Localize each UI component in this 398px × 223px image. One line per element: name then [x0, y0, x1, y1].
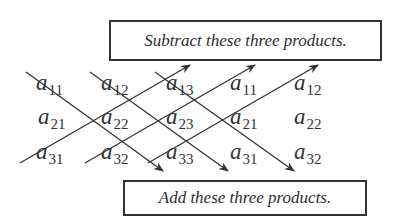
matrix-entry: a12: [101, 71, 129, 94]
matrix-entry: a11: [36, 71, 63, 94]
add-label-box: Add these three products.: [123, 180, 367, 216]
matrix-entry: a21: [230, 105, 258, 128]
add-label: Add these three products.: [159, 188, 331, 208]
matrix-entry: a22: [101, 105, 129, 128]
matrix-entry: a31: [36, 140, 64, 163]
matrix-entry: a12: [294, 71, 322, 94]
matrix-entry: a33: [166, 140, 194, 163]
matrix-entry: a31: [230, 140, 258, 163]
matrix-entry: a23: [166, 105, 194, 128]
matrix-entry: a21: [38, 105, 66, 128]
matrix-entry: a32: [101, 140, 129, 163]
matrix-entry: a13: [166, 71, 194, 94]
matrix-entry: a22: [294, 105, 322, 128]
matrix-entry: a11: [230, 71, 257, 94]
matrix-entry: a32: [294, 140, 322, 163]
